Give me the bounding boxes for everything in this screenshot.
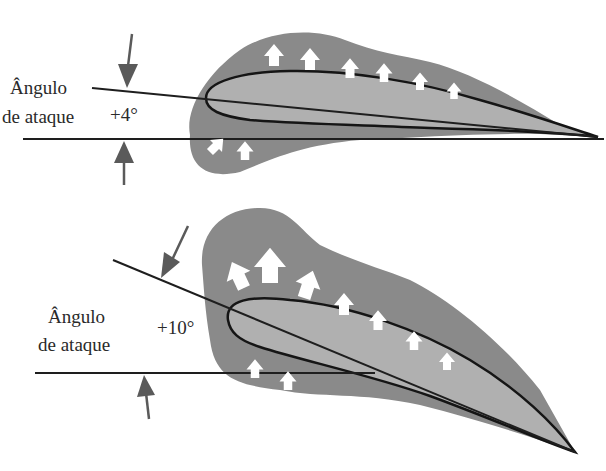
bottom-angle-value: +10°: [157, 316, 194, 340]
bottom-angle-indicator-up: [137, 375, 155, 419]
angle-of-attack-diagram: Ângulo de ataque +4° Ângulo de ataque +1…: [0, 0, 606, 471]
bottom-label-line1: Ângulo: [48, 305, 105, 329]
bottom-angle-indicator-down: [161, 226, 188, 278]
top-label-line1: Ângulo: [10, 76, 67, 100]
bottom-airfoil-group: [35, 208, 575, 452]
diagram-graphics: [0, 0, 606, 471]
top-angle-indicator-up: [114, 141, 134, 185]
top-angle-value: +4°: [110, 103, 138, 127]
top-label-line2: de ataque: [2, 105, 74, 129]
bottom-label-line2: de ataque: [38, 333, 110, 357]
top-angle-indicator-down: [118, 34, 138, 88]
